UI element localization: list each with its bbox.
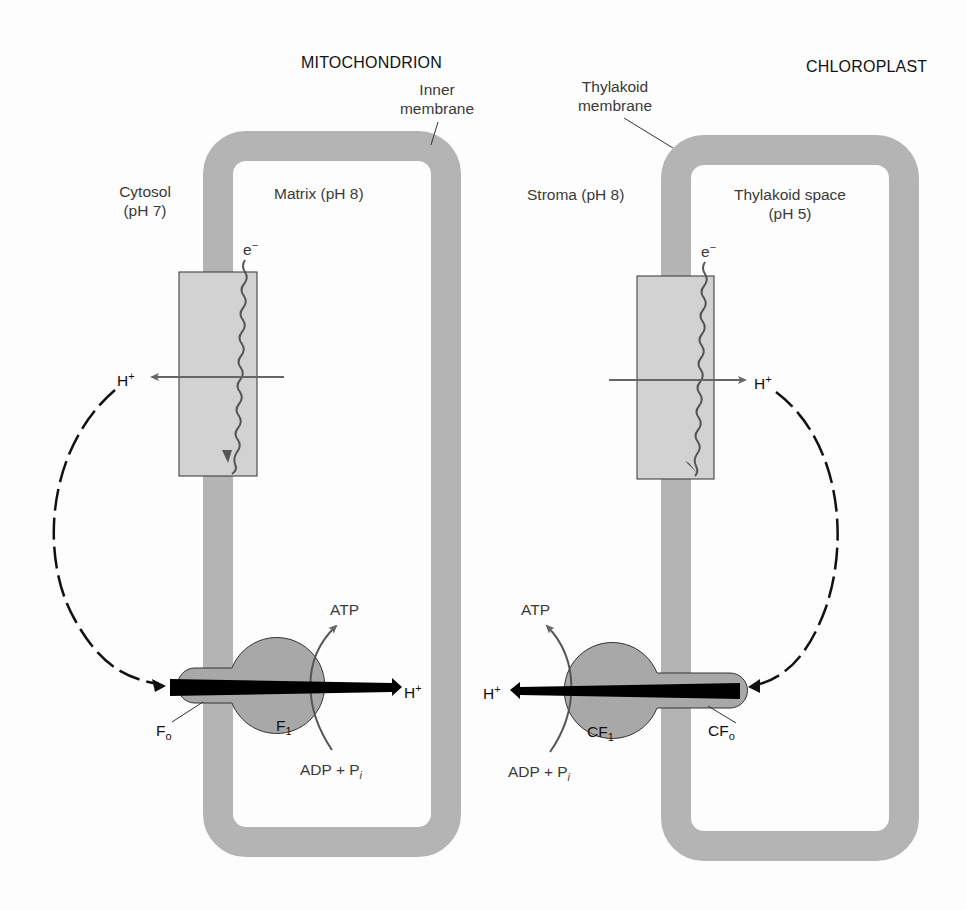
cf1-subscript: 1 bbox=[608, 731, 614, 743]
cf1-label: CF1 bbox=[587, 722, 614, 747]
cfo-symbol: CF bbox=[708, 722, 729, 739]
inner-membrane-label: Inner membrane bbox=[397, 80, 477, 118]
proton-return-dashed-arrow-chloroplast bbox=[760, 392, 838, 684]
adp-label-chloroplast: ADP + Pi bbox=[508, 762, 570, 787]
f1-label: F1 bbox=[276, 716, 292, 741]
proton-pumped-label-chloroplast: H+ bbox=[754, 370, 772, 393]
electron-symbol: e bbox=[701, 243, 710, 260]
thylakoid-membrane-label-line2: membrane bbox=[565, 96, 665, 115]
dashed-arrowhead bbox=[152, 679, 166, 692]
matrix-label: Matrix (pH 8) bbox=[274, 184, 364, 203]
fo-subscript: o bbox=[165, 730, 171, 742]
atp-label: ATP bbox=[330, 600, 359, 619]
proton-synthase-label-chloroplast: H+ bbox=[483, 680, 501, 703]
proton-pumped-label: H+ bbox=[117, 367, 135, 390]
pi-subscript: i bbox=[568, 771, 570, 783]
proton-symbol: H bbox=[117, 372, 128, 389]
proton-return-dashed-arrow bbox=[54, 390, 158, 684]
atp-label-chloroplast: ATP bbox=[521, 600, 550, 619]
proton-symbol: H bbox=[483, 685, 494, 702]
adp-text: ADP + P bbox=[508, 763, 568, 780]
electron-charge: − bbox=[710, 241, 716, 253]
diagram-canvas bbox=[0, 0, 967, 910]
cytosol-label: Cytosol (pH 7) bbox=[105, 182, 185, 220]
thylakoid-space-label-line1: Thylakoid space bbox=[710, 185, 870, 204]
thylakoid-membrane-pointer bbox=[624, 118, 673, 148]
electron-label: e− bbox=[243, 236, 258, 259]
cf1-symbol: CF bbox=[587, 723, 608, 740]
adp-label: ADP + Pi bbox=[300, 760, 362, 785]
proton-symbol: H bbox=[754, 375, 765, 392]
proton-charge: + bbox=[415, 682, 421, 694]
proton-synthase-label: H+ bbox=[404, 679, 422, 702]
thylakoid-membrane-label-line1: Thylakoid bbox=[565, 77, 665, 96]
electron-label-chloroplast: e− bbox=[701, 238, 716, 261]
proton-symbol: H bbox=[404, 684, 415, 701]
thylakoid-space-label: Thylakoid space (pH 5) bbox=[710, 185, 870, 223]
fo-label: Fo bbox=[156, 721, 172, 746]
mitochondrion-title: MITOCHONDRION bbox=[301, 54, 442, 72]
proton-charge: + bbox=[765, 373, 771, 385]
proton-charge: + bbox=[494, 683, 500, 695]
cytosol-label-line2: (pH 7) bbox=[105, 201, 185, 220]
cfo-label: CFo bbox=[708, 721, 735, 746]
f1-subscript: 1 bbox=[285, 725, 291, 737]
fo-pointer bbox=[172, 702, 203, 722]
dashed-arrowhead-chloroplast bbox=[748, 679, 760, 693]
cfo-subscript: o bbox=[729, 730, 735, 742]
pi-subscript: i bbox=[360, 769, 362, 781]
inner-membrane-label-line1: Inner bbox=[397, 80, 477, 99]
thylakoid-space-label-line2: (pH 5) bbox=[710, 204, 870, 223]
chloroplast-title: CHLOROPLAST bbox=[806, 58, 927, 76]
stroma-label: Stroma (pH 8) bbox=[527, 185, 624, 204]
inner-membrane-label-line2: membrane bbox=[397, 99, 477, 118]
proton-charge: + bbox=[128, 370, 134, 382]
electron-symbol: e bbox=[243, 241, 252, 258]
electron-charge: − bbox=[252, 239, 258, 251]
thylakoid-membrane-label: Thylakoid membrane bbox=[565, 77, 665, 115]
adp-text: ADP + P bbox=[300, 761, 360, 778]
cytosol-label-line1: Cytosol bbox=[105, 182, 185, 201]
